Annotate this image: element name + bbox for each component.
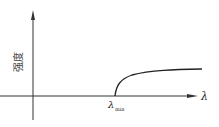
intensity-curve bbox=[115, 69, 202, 96]
y-axis-arrow-icon bbox=[31, 10, 35, 20]
lambda-min-subscript: min bbox=[115, 106, 125, 112]
lambda-min-label: λ bbox=[107, 99, 114, 110]
x-axis-label: λ bbox=[200, 90, 208, 103]
intensity-wavelength-diagram: 强度 λ λ min bbox=[0, 0, 219, 127]
x-axis-arrow-icon bbox=[187, 94, 198, 98]
y-axis-label: 强度 bbox=[12, 52, 24, 72]
